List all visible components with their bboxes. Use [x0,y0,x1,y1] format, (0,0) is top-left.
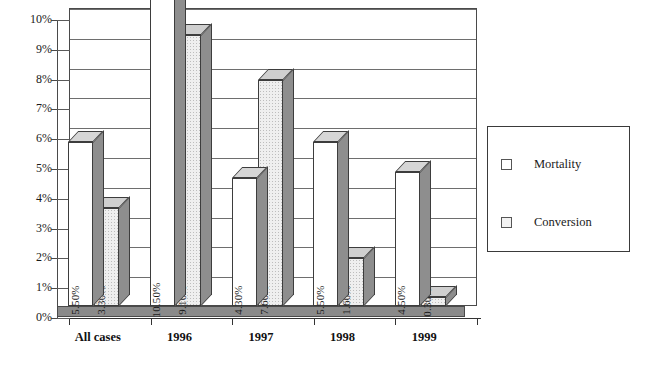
bar-side-face [283,68,294,306]
plot-area: 5.50%3.30%10.50%9.10%4.30%7.60%5.50%1.60… [57,8,477,318]
bar-mortality-2: 4.30% [232,178,257,306]
legend-swatch-mortality-icon [501,159,512,170]
bar-value-label: 5.50% [314,285,326,314]
legend-box: Mortality Conversion [487,126,630,252]
bar-front-face [150,0,175,306]
y-axis-tick-label: 9% [36,42,52,57]
y-axis-tick-label: 5% [36,161,52,176]
bar-mortality-1: 10.50% [150,0,175,306]
category-label-1996: 1996 [134,330,224,345]
bar-mortality-0: 5.50% [68,142,93,306]
category-label-1997: 1997 [216,330,306,345]
y-axis-tick-label: 2% [36,250,52,265]
y-axis-tick-labels: 0%1%2%3%4%5%6%7%8%9%10% [0,0,52,369]
category-tick [395,318,396,325]
category-label-all-cases: All cases [53,330,143,345]
category-tick [151,318,152,325]
bars-layer: 5.50%3.30%10.50%9.10%4.30%7.60%5.50%1.60… [57,8,477,318]
bar-value-label: 10.50% [150,282,162,317]
bar-side-face [175,0,186,306]
bar-front-face [68,142,93,306]
y-axis-tick-label: 1% [36,280,52,295]
category-label-1999: 1999 [379,330,469,345]
category-tick [232,318,233,325]
y-axis-tick-label: 4% [36,191,52,206]
bar-value-label: 5.50% [69,285,81,314]
y-axis-tick-label: 10% [30,12,52,27]
bar-side-face [119,196,130,306]
y-axis-tick-label: 8% [36,72,52,87]
bar-chart: 0%1%2%3%4%5%6%7%8%9%10% 5.50%3.30%10.50%… [0,0,653,369]
bar-value-label: 4.30% [232,285,244,314]
category-tick [314,318,315,325]
y-axis-tick-label: 7% [36,101,52,116]
bar-side-face [93,130,104,306]
bar-front-face [313,142,338,306]
legend-entry-conversion: Conversion [501,215,592,230]
legend-label-conversion: Conversion [534,215,592,230]
y-axis-tick-label: 0% [36,310,52,325]
bar-value-label: 4.50% [395,285,407,314]
y-axis-tick [51,318,57,319]
legend-swatch-conversion-icon [501,217,512,228]
legend-entry-mortality: Mortality [501,157,581,172]
category-axis-line [57,318,481,319]
bar-side-face [338,130,349,306]
bar-mortality-4: 4.50% [395,172,420,306]
bar-mortality-3: 5.50% [313,142,338,306]
bar-side-face [420,160,431,306]
legend-label-mortality: Mortality [534,157,581,172]
y-axis-tick-label: 6% [36,131,52,146]
y-axis-tick-label: 3% [36,221,52,236]
bar-side-face [201,23,212,306]
category-tick [69,318,70,325]
category-label-1998: 1998 [298,330,388,345]
category-tick [477,318,478,325]
bar-side-face [257,166,268,306]
